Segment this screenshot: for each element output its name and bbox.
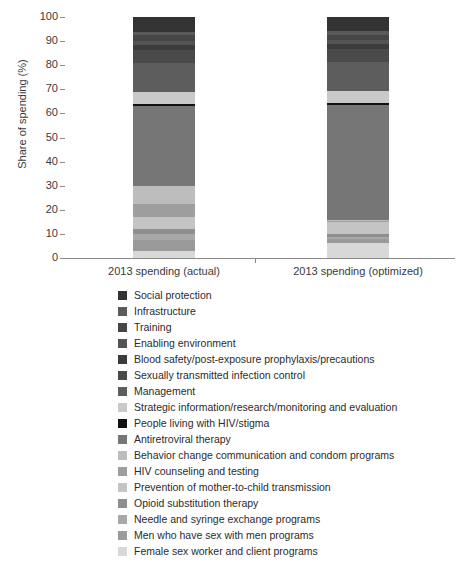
bar-segment — [133, 106, 195, 186]
bar-2013-spending-actual — [133, 17, 195, 258]
legend-item: Female sex worker and client programs — [118, 543, 448, 559]
y-tick-mark — [60, 162, 65, 163]
legend-item: Needle and syringe exchange programs — [118, 511, 448, 527]
legend-label: Enabling environment — [134, 338, 236, 349]
y-tick-label: 70 — [26, 83, 58, 94]
legend-swatch-icon — [118, 451, 127, 460]
chart-legend: Social protectionInfrastructureTrainingE… — [118, 287, 448, 559]
legend-item: Blood safety/post-exposure prophylaxis/p… — [118, 351, 448, 367]
y-tick-label: 50 — [26, 132, 58, 143]
bar-segment — [133, 251, 195, 258]
y-tick-mark — [60, 17, 65, 18]
legend-item: Strategic information/research/monitorin… — [118, 399, 448, 415]
legend-label: Social protection — [134, 290, 212, 301]
legend-swatch-icon — [118, 355, 127, 364]
y-tick-mark — [60, 210, 65, 211]
x-axis-center-tick — [255, 258, 256, 263]
bar-segment — [327, 49, 389, 62]
bar-segment — [327, 62, 389, 91]
legend-item: Sexually transmitted infection control — [118, 367, 448, 383]
legend-swatch-icon — [118, 547, 127, 556]
legend-item: Opioid substitution therapy — [118, 495, 448, 511]
bar-segment — [133, 217, 195, 229]
bar-segment — [133, 204, 195, 217]
x-tick-label-actual: 2013 spending (actual) — [94, 265, 234, 277]
y-tick-label: 90 — [26, 35, 58, 46]
legend-swatch-icon — [118, 499, 127, 508]
legend-item: Social protection — [118, 287, 448, 303]
legend-swatch-icon — [118, 531, 127, 540]
legend-label: Female sex worker and client programs — [134, 546, 318, 557]
legend-swatch-icon — [118, 515, 127, 524]
legend-label: Strategic information/research/monitorin… — [134, 402, 397, 413]
legend-label: Prevention of mother-to-child transmissi… — [134, 482, 331, 493]
legend-label: People living with HIV/stigma — [134, 418, 269, 429]
bar-segment — [133, 50, 195, 63]
y-tick-label: 10 — [26, 228, 58, 239]
y-tick-mark — [60, 234, 65, 235]
legend-swatch-icon — [118, 403, 127, 412]
bar-segment — [133, 240, 195, 251]
y-tick-label: 60 — [26, 107, 58, 118]
y-tick-mark — [60, 41, 65, 42]
legend-label: Needle and syringe exchange programs — [134, 514, 320, 525]
y-tick-label: 30 — [26, 180, 58, 191]
legend-swatch-icon — [118, 307, 127, 316]
y-tick-label: 100 — [26, 11, 58, 22]
legend-item: Behavior change communication and condom… — [118, 447, 448, 463]
legend-swatch-icon — [118, 483, 127, 492]
legend-label: Sexually transmitted infection control — [134, 370, 305, 381]
y-tick-label: 40 — [26, 156, 58, 167]
legend-swatch-icon — [118, 371, 127, 380]
legend-item: Management — [118, 383, 448, 399]
legend-item: Enabling environment — [118, 335, 448, 351]
y-tick-mark — [60, 89, 65, 90]
legend-label: Management — [134, 386, 195, 397]
legend-swatch-icon — [118, 291, 127, 300]
legend-label: Blood safety/post-exposure prophylaxis/p… — [134, 354, 374, 365]
bar-segment — [327, 222, 389, 234]
stacked-bar-chart: Share of spending (%) 100908070605040302… — [0, 0, 460, 286]
y-tick-mark — [60, 65, 65, 66]
bar-segment — [133, 92, 195, 105]
legend-swatch-icon — [118, 435, 127, 444]
legend-swatch-icon — [118, 467, 127, 476]
bar-segment — [133, 17, 195, 31]
legend-item: Men who have sex with men programs — [118, 527, 448, 543]
y-tick-mark — [60, 258, 65, 259]
x-axis-line — [65, 258, 455, 259]
bar-segment — [133, 186, 195, 204]
legend-label: Antiretroviral therapy — [134, 434, 231, 445]
y-tick-label: 80 — [26, 59, 58, 70]
legend-item: People living with HIV/stigma — [118, 415, 448, 431]
bar-segment — [327, 105, 389, 220]
legend-label: HIV counseling and testing — [134, 466, 259, 477]
y-tick-mark — [60, 186, 65, 187]
legend-label: Infrastructure — [134, 306, 196, 317]
legend-label: Men who have sex with men programs — [134, 530, 314, 541]
bar-segment — [327, 91, 389, 103]
y-tick-label: 20 — [26, 204, 58, 215]
legend-label: Behavior change communication and condom… — [134, 450, 394, 461]
legend-item: HIV counseling and testing — [118, 463, 448, 479]
legend-item: Infrastructure — [118, 303, 448, 319]
y-tick-mark — [60, 113, 65, 114]
bar-2013-spending-optimized — [327, 17, 389, 258]
legend-label: Training — [134, 322, 172, 333]
y-tick-label: 0 — [26, 252, 58, 263]
y-tick-mark — [60, 138, 65, 139]
x-tick-label-optimized: 2013 spending (optimized) — [283, 265, 433, 277]
legend-item: Prevention of mother-to-child transmissi… — [118, 479, 448, 495]
y-axis-tick-labels: 1009080706050403020100 — [22, 0, 58, 286]
bar-segment — [133, 63, 195, 92]
legend-item: Antiretroviral therapy — [118, 431, 448, 447]
bar-segment — [327, 243, 389, 259]
legend-item: Training — [118, 319, 448, 335]
legend-swatch-icon — [118, 339, 127, 348]
legend-swatch-icon — [118, 419, 127, 428]
legend-swatch-icon — [118, 387, 127, 396]
bar-segment — [327, 17, 389, 31]
legend-label: Opioid substitution therapy — [134, 498, 258, 509]
legend-swatch-icon — [118, 323, 127, 332]
